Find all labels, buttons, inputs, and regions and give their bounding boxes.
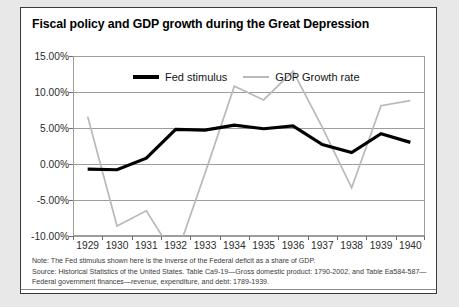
legend-item-fed-stimulus: Fed stimulus [133, 71, 227, 83]
x-axis-tick-label: 1931 [135, 240, 158, 251]
x-axis-tick-label: 1935 [252, 240, 275, 251]
y-axis-tick-label: 5.00% [9, 123, 69, 134]
plot-area: 15.00%10.00%5.00%0.00%-5.00%-10.00% 1929… [73, 56, 425, 236]
x-axis-tick-label: 1930 [106, 240, 129, 251]
x-axis-tick-mark [308, 236, 309, 240]
line-swatch-icon [133, 75, 159, 78]
note-line: Note: The Fed stimulus shown here is the… [32, 256, 428, 267]
y-axis-tick-label: 0.00% [9, 159, 69, 170]
x-axis-tick-label: 1938 [340, 240, 363, 251]
x-axis-tick-mark [278, 236, 279, 240]
chart-legend: Fed stimulus GDP Growth rate [133, 71, 360, 83]
source-line: Source: Historical Statistics of the Uni… [32, 267, 428, 278]
x-axis-tick-label: 1932 [164, 240, 187, 251]
x-axis-tick-label: 1933 [194, 240, 217, 251]
x-axis-tick-mark [161, 236, 162, 240]
series-line-gdp-growth-rate [88, 71, 411, 236]
series-line-fed-stimulus [88, 125, 411, 170]
y-axis-tick-label: -10.00% [9, 231, 69, 242]
x-axis-tick-mark [249, 236, 250, 240]
x-axis-tick-mark [190, 236, 191, 240]
x-axis-tick-mark [396, 236, 397, 240]
x-axis-tick-mark [424, 236, 425, 240]
x-axis-tick-label: 1939 [370, 240, 393, 251]
series-lines [73, 56, 425, 236]
x-axis-tick-label: 1934 [223, 240, 246, 251]
y-axis-tick-label: 15.00% [9, 51, 69, 62]
x-axis-tick-label: 1940 [399, 240, 422, 251]
line-swatch-icon [243, 76, 269, 78]
x-axis-tick-mark [220, 236, 221, 240]
x-axis-tick-label: 1936 [282, 240, 305, 251]
x-axis-tick-mark [337, 236, 338, 240]
chart-figure: Fiscal policy and GDP growth during the … [20, 7, 437, 294]
legend-label: Fed stimulus [165, 71, 227, 83]
x-axis-tick-label: 1929 [76, 240, 99, 251]
page-title: Fiscal policy and GDP growth during the … [32, 17, 369, 31]
x-axis-tick-mark [102, 236, 103, 240]
x-axis-tick-mark [132, 236, 133, 240]
chart-notes: Note: The Fed stimulus shown here is the… [32, 256, 428, 288]
legend-item-gdp-growth-rate: GDP Growth rate [243, 71, 359, 83]
footer-divider [21, 289, 436, 290]
y-axis-tick-label: 10.00% [9, 87, 69, 98]
source-line-continued: Federal government finances—revenue, exp… [32, 277, 428, 288]
y-axis-tick-label: -5.00% [9, 195, 69, 206]
legend-label: GDP Growth rate [275, 71, 359, 83]
x-axis-tick-mark [73, 236, 74, 240]
x-axis-tick-label: 1937 [311, 240, 334, 251]
x-axis-tick-mark [366, 236, 367, 240]
